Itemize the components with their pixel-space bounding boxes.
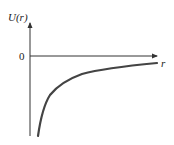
zero-tick-label: 0 bbox=[19, 51, 25, 62]
x-axis-label: r bbox=[161, 58, 165, 69]
potential-curve bbox=[38, 63, 157, 136]
y-axis-label: U(r) bbox=[8, 12, 28, 23]
